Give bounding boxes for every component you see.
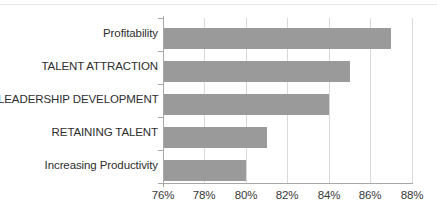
category-axis-labels: Profitability TALENT ATTRACTION LEADERSH… — [0, 0, 158, 217]
bar-profitability — [163, 28, 391, 49]
y-axis-tick — [158, 18, 163, 19]
bar-increasing-productivity — [163, 160, 246, 181]
x-axis-tick-label: 88% — [392, 189, 432, 201]
category-label: Profitability — [0, 27, 158, 39]
y-axis-tick — [158, 183, 163, 184]
bar-retaining-talent — [163, 127, 267, 148]
category-label: TALENT ATTRACTION — [0, 60, 158, 72]
bar-leadership-development — [163, 94, 329, 115]
gridline — [412, 18, 413, 183]
x-axis-tick-label: 80% — [226, 189, 266, 201]
category-label: LEADERSHIP DEVELOPMENT — [0, 93, 158, 105]
y-axis-tick — [158, 150, 163, 151]
y-axis-line — [163, 16, 164, 185]
x-axis-tick-label: 82% — [267, 189, 307, 201]
category-label: RETAINING TALENT — [0, 126, 158, 138]
x-axis-origin-tick — [163, 183, 164, 187]
category-label: Increasing Productivity — [0, 159, 158, 171]
bar-chart: Profitability TALENT ATTRACTION LEADERSH… — [0, 0, 437, 217]
plot-area — [163, 18, 412, 183]
y-axis-tick — [158, 117, 163, 118]
y-axis-tick — [158, 84, 163, 85]
x-axis-tick-label: 76% — [143, 189, 183, 201]
bar-talent-attraction — [163, 61, 350, 82]
x-axis-tick-label: 78% — [184, 189, 224, 201]
x-axis-tick-label: 86% — [350, 189, 390, 201]
y-axis-tick — [158, 51, 163, 52]
x-axis-line — [163, 183, 413, 184]
x-axis-tick-label: 84% — [309, 189, 349, 201]
